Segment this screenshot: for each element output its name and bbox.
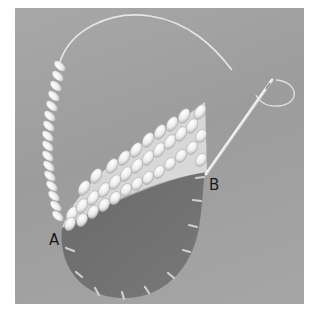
- twisted-cord: [40, 58, 68, 223]
- point-label-b: B: [209, 178, 219, 193]
- point-label-a: A: [49, 233, 59, 248]
- thread: [60, 15, 232, 70]
- stitch-illustration: [0, 0, 311, 313]
- needle-icon: [206, 80, 273, 174]
